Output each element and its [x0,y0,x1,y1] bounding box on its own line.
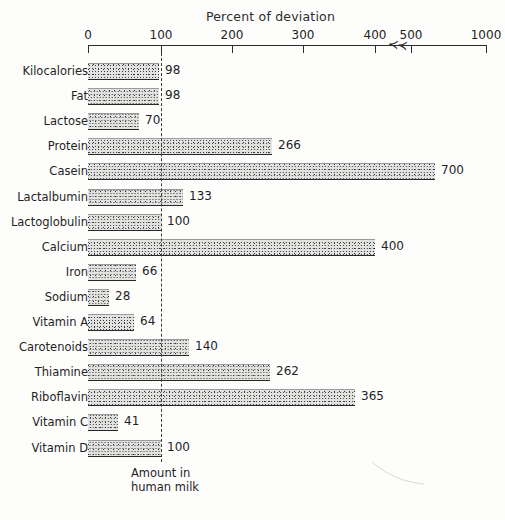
bar-carotenoids [88,339,189,356]
bar-row: Kilocalories98 [0,62,505,84]
bar-value-casein: 700 [441,163,464,177]
category-label-iron: Iron [0,265,88,279]
bar-calcium [88,239,375,256]
bar-value-vitamin-d: 100 [167,440,190,454]
category-label-protein: Protein [0,139,88,153]
category-label-lactose: Lactose [0,114,88,128]
category-label-casein: Casein [0,164,88,178]
bar-kilocalories [88,63,159,80]
bar-value-sodium: 28 [115,289,130,303]
category-label-vitamin-d: Vitamin D [0,441,88,455]
bar-fat [88,88,159,105]
bar-protein [88,138,272,155]
category-label-calcium: Calcium [0,240,88,254]
bar-value-lactoglobulin: 100 [167,214,190,228]
bar-lactalbumin [88,189,183,206]
bar-vitamin-d [88,440,161,457]
category-label-vitamin-a: Vitamin A [0,315,88,329]
bar-row: Lactalbumin133 [0,188,505,210]
bar-value-riboflavin: 365 [361,389,384,403]
bar-vitamin-c [88,414,118,431]
bar-row: Riboflavin365 [0,388,505,410]
bar-row: Carotenoids140 [0,338,505,360]
bar-row: Casein700 [0,162,505,184]
bar-lactoglobulin [88,214,161,231]
bar-value-vitamin-a: 64 [140,314,155,328]
bar-row: Lactoglobulin100 [0,213,505,235]
bar-row: Iron66 [0,263,505,285]
bar-value-kilocalories: 98 [165,63,180,77]
bar-sodium [88,289,109,306]
category-label-thiamine: Thiamine [0,365,88,379]
bar-value-vitamin-c: 41 [124,414,139,428]
plot-area: Kilocalories98Fat98Lactose70Protein266Ca… [0,0,505,520]
bar-row: Vitamin A64 [0,313,505,335]
chart-container: Percent of deviation 0100200300400500100… [0,0,505,520]
bar-row: Sodium28 [0,288,505,310]
reference-line-annotation-line1: Amount in [131,466,271,480]
bar-iron [88,264,136,281]
bar-row: Vitamin C41 [0,413,505,435]
category-label-kilocalories: Kilocalories [0,64,88,78]
bar-row: Vitamin D100 [0,439,505,461]
bar-value-lactose: 70 [145,113,160,127]
bar-row: Thiamine262 [0,363,505,385]
reference-line-annotation: Amount in human milk [131,466,271,495]
bar-lactose [88,113,139,130]
category-label-lactoglobulin: Lactoglobulin [0,215,88,229]
bar-value-fat: 98 [165,88,180,102]
bar-thiamine [88,364,270,381]
category-label-lactalbumin: Lactalbumin [0,190,88,204]
bar-value-lactalbumin: 133 [189,189,212,203]
bar-riboflavin [88,389,355,406]
bar-value-protein: 266 [278,138,301,152]
bar-row: Protein266 [0,137,505,159]
bar-vitamin-a [88,314,134,331]
bar-row: Lactose70 [0,112,505,134]
bar-value-thiamine: 262 [276,364,299,378]
category-label-riboflavin: Riboflavin [0,390,88,404]
bar-value-calcium: 400 [381,239,404,253]
category-label-carotenoids: Carotenoids [0,340,88,354]
bar-casein [88,163,435,180]
bar-value-iron: 66 [142,264,157,278]
bar-row: Fat98 [0,87,505,109]
reference-line-annotation-line2: human milk [131,480,271,494]
category-label-fat: Fat [0,89,88,103]
category-label-vitamin-c: Vitamin C [0,415,88,429]
bar-row: Calcium400 [0,238,505,260]
reference-line-100 [161,53,162,462]
bar-value-carotenoids: 140 [195,339,218,353]
category-label-sodium: Sodium [0,290,88,304]
